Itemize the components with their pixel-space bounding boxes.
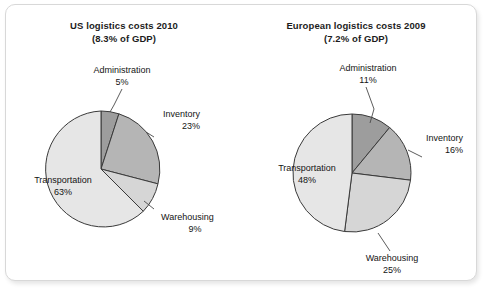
pie-label-eu-warehousing: Warehousing 25% <box>350 253 434 276</box>
pie-label-eu-warehousing-name: Warehousing <box>366 253 419 263</box>
pie-label-us-inventory-pct: 23% <box>163 121 219 133</box>
chart-panel-us-logistics: US logistics costs 2010 (8.3% of GDP) Ad… <box>6 5 242 282</box>
pie-label-us-warehousing: Warehousing 9% <box>161 212 229 235</box>
pie-label-us-transportation-name: Transportation <box>34 175 92 185</box>
pie-label-us-administration: Administration 5% <box>68 65 176 88</box>
pie-label-us-transportation: Transportation 63% <box>20 175 106 198</box>
pie-label-eu-transportation-pct: 48% <box>264 175 350 187</box>
pie-label-eu-administration-pct: 11% <box>314 75 422 87</box>
pie-label-eu-inventory: Inventory 16% <box>426 133 482 156</box>
pie-slice-eu-warehousing[interactable] <box>345 173 411 232</box>
pie-label-eu-inventory-name: Inventory <box>426 133 463 143</box>
pie-label-us-inventory: Inventory 23% <box>163 109 219 132</box>
leader-line-eu-warehousing <box>378 233 390 251</box>
pie-label-eu-inventory-pct: 16% <box>426 145 482 157</box>
pie-label-eu-administration-name: Administration <box>339 63 396 73</box>
leader-line-eu-inventory <box>408 150 422 157</box>
pie-label-us-warehousing-pct: 9% <box>161 224 229 236</box>
pie-label-us-administration-name: Administration <box>93 65 150 75</box>
pie-label-us-transportation-pct: 63% <box>20 187 106 199</box>
leader-line-us-administration <box>110 89 122 112</box>
pie-label-us-warehousing-name: Warehousing <box>161 212 214 222</box>
chart-panel-european-logistics: European logistics costs 2009 (7.2% of G… <box>238 5 474 282</box>
pie-label-eu-transportation: Transportation 48% <box>264 163 350 186</box>
pie-chart-us <box>6 5 242 282</box>
pie-label-eu-administration: Administration 11% <box>314 63 422 86</box>
pie-label-us-administration-pct: 5% <box>68 77 176 89</box>
pie-label-eu-transportation-name: Transportation <box>278 163 336 173</box>
figure-frame: US logistics costs 2010 (8.3% of GDP) Ad… <box>5 4 477 281</box>
pie-label-us-inventory-name: Inventory <box>163 109 200 119</box>
pie-label-eu-warehousing-pct: 25% <box>350 265 434 277</box>
